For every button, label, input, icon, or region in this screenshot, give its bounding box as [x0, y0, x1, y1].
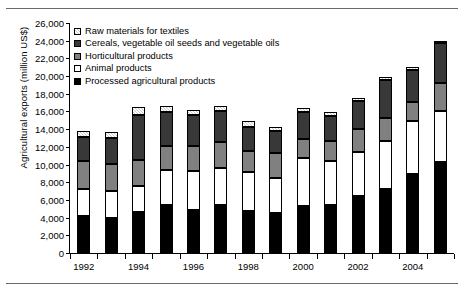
legend-swatch-icon: [74, 65, 81, 72]
bar-segment: [214, 142, 227, 169]
bar-segment: [132, 115, 145, 160]
y-axis-tick-mark: [66, 111, 70, 112]
x-axis-tick-mark: [427, 254, 428, 259]
bar-segment: [297, 206, 310, 253]
x-axis-tick-mark: [125, 254, 126, 259]
bar-segment: [406, 102, 419, 121]
bar-segment: [160, 106, 173, 112]
bar-segment: [105, 164, 118, 191]
y-axis-tick-mark: [66, 147, 70, 148]
bar-segment: [242, 172, 255, 211]
bar-segment: [160, 170, 173, 205]
bar-segment: [214, 205, 227, 253]
bar-segment: [406, 70, 419, 102]
bar-segment: [434, 83, 447, 111]
legend-item-label: Raw materials for textiles: [85, 27, 189, 37]
legend-item-label: Cereals, vegetable oil seeds and vegetab…: [85, 39, 279, 49]
y-axis-tick-mark: [66, 165, 70, 166]
bar-2001: [324, 112, 337, 253]
x-axis-tick-mark: [97, 254, 98, 259]
y-axis-tick-labels: 02,0004,0006,0008,00010,00012,00014,0001…: [18, 23, 64, 253]
bar-segment: [214, 111, 227, 141]
bar-1997: [214, 106, 227, 253]
legend-item: Raw materials for textiles: [74, 25, 279, 38]
bar-segment: [324, 141, 337, 161]
legend-swatch-icon: [74, 53, 81, 60]
x-axis-tick-mark: [344, 254, 345, 259]
y-axis-tick-label: 18,000: [35, 89, 64, 98]
x-axis-tick-mark: [372, 254, 373, 259]
bar-2003: [379, 77, 392, 253]
stacked-bar-chart: Agricultural exports (million US$) 02,00…: [0, 0, 464, 297]
x-axis-tick-mark: [152, 254, 153, 259]
y-axis-tick-label: 8,000: [40, 178, 64, 187]
bar-segment: [324, 112, 337, 116]
bar-1998: [242, 121, 255, 253]
y-axis-tick-mark: [66, 23, 70, 24]
bar-1996: [187, 110, 200, 253]
y-axis-tick-label: 2,000: [40, 231, 64, 240]
legend-swatch-icon: [74, 40, 81, 47]
y-axis-tick-mark: [66, 76, 70, 77]
bar-segment: [77, 161, 90, 189]
bar-1993: [105, 132, 118, 253]
x-axis-tick-mark: [235, 254, 236, 259]
bar-segment: [324, 116, 337, 141]
bar-segment: [379, 189, 392, 253]
y-axis-tick-label: 4,000: [40, 213, 64, 222]
bar-2005: [434, 41, 447, 253]
bar-2002: [352, 98, 365, 253]
bar-1992: [77, 131, 90, 253]
bar-segment: [77, 189, 90, 216]
x-axis-tick-mark: [207, 254, 208, 259]
y-axis-tick-label: 14,000: [35, 125, 64, 134]
y-axis-tick-mark: [66, 218, 70, 219]
y-axis-tick-mark: [66, 200, 70, 201]
y-axis-tick-label: 12,000: [35, 142, 64, 151]
bar-2004: [406, 67, 419, 253]
bar-segment: [269, 127, 282, 131]
y-axis-tick-label: 22,000: [35, 54, 64, 63]
y-axis-tick-label: 26,000: [35, 19, 64, 28]
bar-segment: [214, 168, 227, 205]
y-axis-tick-mark: [66, 94, 70, 95]
bar-segment: [269, 213, 282, 253]
legend-swatch-icon: [74, 28, 81, 35]
x-axis-tick-label: 1996: [183, 261, 204, 272]
bar-segment: [132, 160, 145, 186]
bar-segment: [242, 127, 255, 152]
x-axis-tick-mark: [70, 254, 71, 259]
bar-segment: [187, 110, 200, 115]
y-axis-tick-label: 0: [59, 249, 64, 258]
bar-segment: [297, 139, 310, 158]
y-axis-tick-mark: [66, 58, 70, 59]
bar-segment: [160, 146, 173, 170]
x-axis-tick-label: 1994: [128, 261, 149, 272]
bar-segment: [187, 171, 200, 210]
y-axis-tick-label: 10,000: [35, 160, 64, 169]
bar-segment: [77, 216, 90, 253]
x-axis-tick-mark: [262, 254, 263, 259]
legend-item: Cereals, vegetable oil seeds and vegetab…: [74, 38, 279, 51]
x-axis-tick-mark: [399, 254, 400, 259]
y-axis-tick-label: 6,000: [40, 195, 64, 204]
bar-segment: [105, 138, 118, 164]
bar-segment: [352, 196, 365, 253]
bar-segment: [352, 98, 365, 101]
bar-segment: [434, 43, 447, 83]
legend-item: Horticultural products: [74, 50, 279, 63]
x-axis-tick-label: 2002: [347, 261, 368, 272]
chart-legend: Raw materials for textilesCereals, veget…: [74, 25, 279, 88]
y-axis-tick-mark: [66, 129, 70, 130]
bar-segment: [269, 153, 282, 178]
x-axis-tick-mark: [180, 254, 181, 259]
legend-item-label: Animal products: [85, 64, 152, 74]
bar-segment: [105, 132, 118, 138]
bar-segment: [132, 186, 145, 213]
bar-segment: [297, 158, 310, 206]
x-axis-tick-label: 2004: [402, 261, 423, 272]
bar-segment: [379, 77, 392, 80]
y-axis-tick-mark: [66, 235, 70, 236]
bar-segment: [379, 141, 392, 190]
bar-segment: [105, 218, 118, 253]
